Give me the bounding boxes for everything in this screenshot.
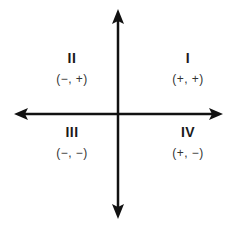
quadrant-iv: IV (+, −) [153, 125, 223, 160]
quadrant-ii-label: II [37, 51, 107, 65]
quadrant-ii: II (−, +) [37, 51, 107, 86]
quadrant-iii: III (−, −) [37, 125, 107, 160]
quadrant-ii-signs: (−, +) [37, 73, 107, 86]
coordinate-axes [0, 0, 236, 230]
quadrant-iv-label: IV [153, 125, 223, 139]
quadrant-i-signs: (+, +) [153, 73, 223, 86]
quadrant-iii-signs: (−, −) [37, 147, 107, 160]
quadrant-i: I (+, +) [153, 51, 223, 86]
quadrant-diagram: II (−, +) I (+, +) III (−, −) IV (+, −) [0, 0, 236, 230]
quadrant-iv-signs: (+, −) [153, 147, 223, 160]
quadrant-i-label: I [153, 51, 223, 65]
quadrant-iii-label: III [37, 125, 107, 139]
